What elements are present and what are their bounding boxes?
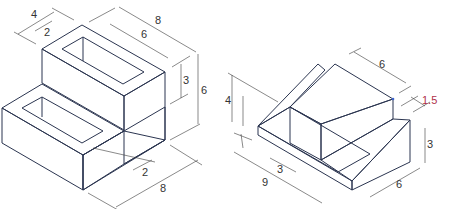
dim-label-2-slot-inner: 2	[44, 26, 50, 38]
base-top-face	[258, 107, 370, 172]
dim-label-3-right: 3	[427, 138, 433, 150]
inclined-block-figure: 6 1.5 4 9 3 3 6	[225, 48, 437, 203]
dim-label-3-step: 3	[183, 74, 189, 86]
ramp-top-face	[321, 119, 410, 181]
back-wall-top	[258, 64, 325, 126]
dim-label-2-lower: 2	[142, 166, 148, 178]
dim-label-4-left: 4	[225, 94, 231, 106]
dim-label-8-top: 8	[155, 14, 161, 26]
dim-label-1-5: 1.5	[422, 94, 437, 106]
dim-label-6-top: 6	[379, 58, 385, 70]
corner-marker	[392, 98, 395, 101]
dim-label-3-step: 3	[277, 163, 283, 175]
left-figure-dimensions: 4 2 8 6 3 6 2	[14, 7, 207, 209]
upper-slanted-top	[290, 64, 393, 124]
stepped-block-figure: 4 2 8 6 3 6 2	[2, 7, 207, 209]
dim-label-8-base: 8	[160, 182, 166, 194]
upper-block-right-face	[124, 72, 165, 164]
dim-label-6-height: 6	[201, 84, 207, 96]
dim-label-9-base: 9	[262, 176, 268, 188]
isometric-drawing-canvas: 4 2 8 6 3 6 2	[0, 0, 451, 209]
dim-label-6-top: 6	[141, 28, 147, 40]
dim-label-4-slot-outer: 4	[31, 8, 37, 20]
upper-right-face	[321, 99, 393, 160]
lower-slot-opening	[22, 97, 103, 143]
dim-label-6-base: 6	[396, 178, 402, 190]
upper-slot-opening	[62, 37, 144, 84]
